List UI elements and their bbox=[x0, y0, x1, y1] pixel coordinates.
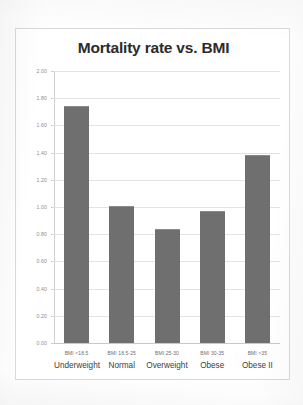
gridline bbox=[54, 71, 280, 72]
x-axis-category-label: Obese II bbox=[235, 361, 280, 370]
gridline bbox=[54, 98, 280, 99]
chart-frame: Mortality rate vs. BMI 2.001.801.601.401… bbox=[15, 28, 290, 380]
plot-area bbox=[54, 71, 280, 343]
x-axis-code-label: BMI >35 bbox=[235, 350, 280, 356]
y-axis-tick-label: 1.80 bbox=[17, 95, 47, 101]
y-axis-tick-label: 0.60 bbox=[17, 258, 47, 264]
y-axis-tick-label: 1.00 bbox=[17, 204, 47, 210]
x-axis-code-label: BMI 25-30 bbox=[144, 350, 189, 356]
bar bbox=[245, 155, 270, 343]
y-axis-tick-label: 2.00 bbox=[17, 68, 47, 74]
bar bbox=[200, 211, 225, 343]
y-axis-tick-label: 1.20 bbox=[17, 177, 47, 183]
chart-title: Mortality rate vs. BMI bbox=[16, 39, 291, 57]
x-axis-category-label: Normal bbox=[99, 361, 144, 370]
y-axis-tick-label: 0.00 bbox=[17, 340, 47, 346]
x-axis-category-label: Obese bbox=[190, 361, 235, 370]
x-axis-category-label: Overweight bbox=[144, 361, 189, 370]
gridline bbox=[54, 343, 280, 344]
x-axis-code-label: BMI 30-35 bbox=[190, 350, 235, 356]
y-axis-tick-label: 1.40 bbox=[17, 150, 47, 156]
bar bbox=[64, 106, 89, 343]
x-axis-category-label: Underweight bbox=[54, 361, 99, 370]
y-axis-tick-label: 0.80 bbox=[17, 231, 47, 237]
bar bbox=[109, 206, 134, 343]
x-axis-code-label: BMI 18.5-25 bbox=[99, 350, 144, 356]
scanned-page: Mortality rate vs. BMI 2.001.801.601.401… bbox=[0, 0, 303, 405]
bar bbox=[155, 229, 180, 343]
y-axis-tick-label: 0.20 bbox=[17, 313, 47, 319]
y-axis-tick-label: 0.40 bbox=[17, 286, 47, 292]
x-axis-code-label: BMI <18.5 bbox=[54, 350, 99, 356]
y-axis-tick-label: 1.60 bbox=[17, 122, 47, 128]
